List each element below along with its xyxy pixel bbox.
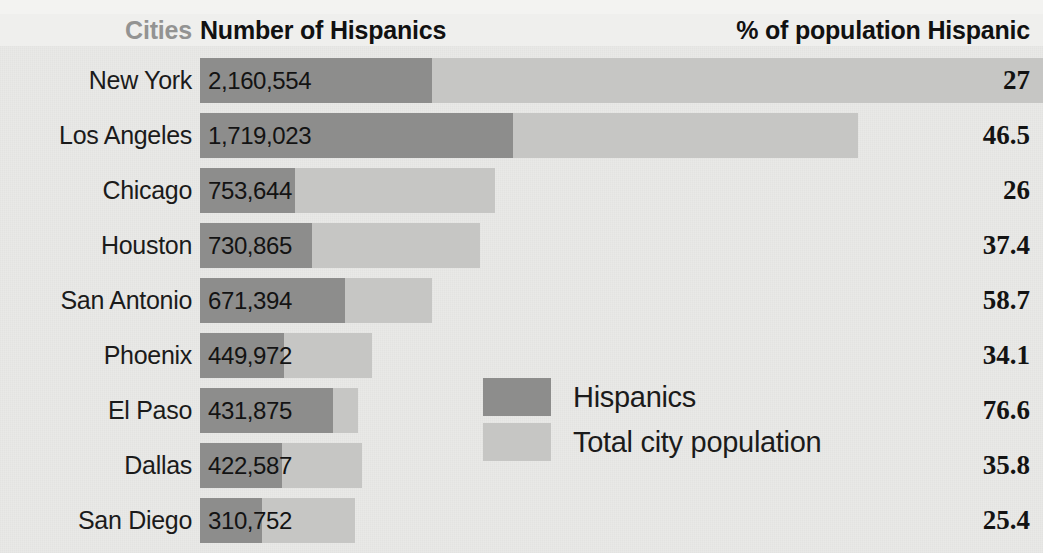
percent-hispanic-value: 37.4 bbox=[983, 223, 1030, 268]
hispanics-count-label: 730,865 bbox=[208, 223, 292, 268]
bar-group: 431,875 bbox=[200, 388, 358, 433]
hispanics-count-label: 1,719,023 bbox=[208, 113, 311, 158]
city-label: Houston bbox=[101, 223, 192, 268]
hispanics-count-label: 310,752 bbox=[208, 498, 292, 543]
percent-hispanic-value: 46.5 bbox=[983, 113, 1030, 158]
city-label: San Antonio bbox=[60, 278, 192, 323]
top-strip bbox=[0, 0, 1043, 14]
percent-hispanic-value: 26 bbox=[1003, 168, 1030, 213]
bar-group: 449,972 bbox=[200, 333, 372, 378]
bar-group: 753,644 bbox=[200, 168, 495, 213]
column-header-number-of-hispanics: Number of Hispanics bbox=[200, 14, 446, 46]
city-label: Dallas bbox=[124, 443, 192, 488]
hispanics-swatch-icon bbox=[483, 378, 551, 416]
bar-group: 422,587 bbox=[200, 443, 362, 488]
city-label: Chicago bbox=[102, 168, 192, 213]
percent-hispanic-value: 58.7 bbox=[983, 278, 1030, 323]
hispanics-count-label: 449,972 bbox=[208, 333, 292, 378]
legend-label-hispanics: Hispanics bbox=[573, 378, 696, 416]
table-row: Houston730,86537.4 bbox=[0, 223, 1043, 268]
city-label: San Diego bbox=[78, 498, 192, 543]
bar-group: 1,719,023 bbox=[200, 113, 858, 158]
hispanics-count-label: 2,160,554 bbox=[208, 58, 311, 103]
table-row: New York2,160,55427 bbox=[0, 58, 1043, 103]
total-population-swatch-icon bbox=[483, 423, 551, 461]
city-label: New York bbox=[89, 58, 192, 103]
city-label: Phoenix bbox=[104, 333, 192, 378]
hispanics-count-label: 753,644 bbox=[208, 168, 292, 213]
hispanics-count-label: 422,587 bbox=[208, 443, 292, 488]
bar-group: 310,752 bbox=[200, 498, 355, 543]
table-row: San Diego310,75225.4 bbox=[0, 498, 1043, 543]
column-header-cities: Cities bbox=[125, 14, 192, 46]
bar-group: 2,160,554 bbox=[200, 58, 1043, 103]
table-row: Los Angeles1,719,02346.5 bbox=[0, 113, 1043, 158]
table-row: Chicago753,64426 bbox=[0, 168, 1043, 213]
bar-group: 730,865 bbox=[200, 223, 480, 268]
hispanics-count-label: 431,875 bbox=[208, 388, 292, 433]
legend-label-total-city-population: Total city population bbox=[573, 423, 821, 461]
percent-hispanic-value: 76.6 bbox=[983, 388, 1030, 433]
percent-hispanic-value: 25.4 bbox=[983, 498, 1030, 543]
hispanic-population-bar-chart: Cities Number of Hispanics % of populati… bbox=[0, 0, 1043, 553]
percent-hispanic-value: 35.8 bbox=[983, 443, 1030, 488]
city-label: Los Angeles bbox=[59, 113, 192, 158]
percent-hispanic-value: 27 bbox=[1003, 58, 1030, 103]
bar-group: 671,394 bbox=[200, 278, 432, 323]
column-header-percent-population-hispanic: % of population Hispanic bbox=[736, 14, 1030, 46]
table-row: Phoenix449,97234.1 bbox=[0, 333, 1043, 378]
percent-hispanic-value: 34.1 bbox=[983, 333, 1030, 378]
city-label: El Paso bbox=[108, 388, 192, 433]
table-row: San Antonio671,39458.7 bbox=[0, 278, 1043, 323]
hispanics-count-label: 671,394 bbox=[208, 278, 292, 323]
